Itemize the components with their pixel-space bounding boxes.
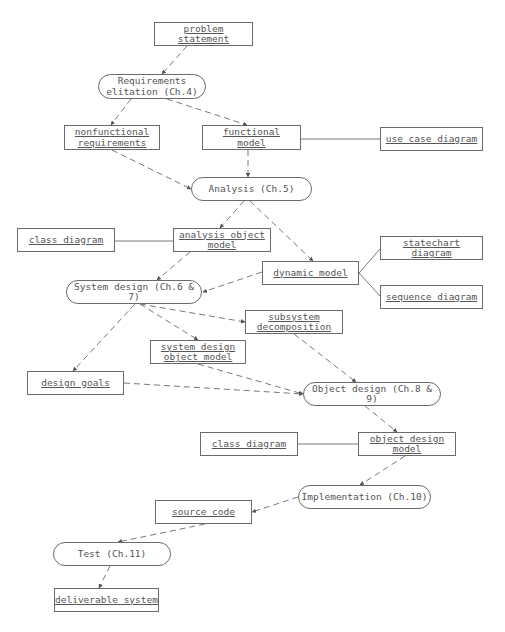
- node-system-design-object-model: system design object model: [150, 340, 246, 364]
- edge-system-design-object-model-to-object-design: [198, 364, 303, 394]
- node-subsystem-decomposition: subsystem decomposition: [245, 310, 343, 334]
- node-statechart-diagram: statechart diagram: [380, 236, 483, 260]
- edge-test-to-deliverable-system: [99, 566, 110, 588]
- edge-problem-statement-to-requirements-elicitation: [162, 46, 187, 74]
- node-object-design-model: object design model: [358, 432, 456, 456]
- node-test: Test (Ch.11): [53, 542, 171, 566]
- edge-requirements-elicitation-to-nonfunctional-requirements: [111, 99, 131, 125]
- node-nonfunctional-requirements: nonfunctional requirements: [64, 125, 160, 150]
- edge-system-design-to-subsystem-decomposition: [140, 304, 245, 322]
- edge-source-code-to-test: [118, 524, 205, 542]
- edge-nonfunctional-requirements-to-analysis: [112, 150, 191, 189]
- node-sequence-diagram: sequence diagram: [380, 285, 483, 309]
- edge-analysis-object-model-to-system-design: [157, 252, 190, 280]
- node-analysis: Analysis (Ch.5): [191, 177, 312, 201]
- node-class-diagram-1: class diagram: [17, 228, 115, 252]
- edge-dynamic-model-to-sequence-diagram: [359, 273, 380, 296]
- edge-object-design-model-to-implementation: [360, 456, 405, 485]
- node-deliverable-system: deliverable system: [54, 588, 159, 612]
- edge-requirements-elicitation-to-functional-model: [167, 99, 247, 125]
- node-problem-statement: problem statement: [154, 22, 253, 46]
- node-source-code: source code: [155, 500, 252, 524]
- node-object-design: Object design (Ch.8 & 9): [303, 382, 441, 406]
- edge-implementation-to-source-code: [252, 497, 298, 512]
- edge-design-goals-to-object-design: [124, 383, 303, 394]
- node-requirements-elicitation: Requirements elitation (Ch.4): [98, 74, 206, 99]
- edge-object-design-to-object-design-model: [365, 406, 397, 432]
- node-system-design: System design (Ch.6 & 7): [66, 280, 202, 304]
- edge-dynamic-model-to-system-design: [203, 272, 262, 292]
- edge-subsystem-decomposition-to-object-design: [294, 334, 356, 382]
- node-functional-model: functional model: [202, 125, 301, 150]
- node-class-diagram-2: class diagram: [200, 432, 298, 456]
- node-design-goals: design goals: [27, 371, 124, 395]
- node-implementation: Implementation (Ch.10): [298, 485, 431, 509]
- node-analysis-object-model: analysis object model: [173, 228, 271, 252]
- edge-analysis-to-analysis-object-model: [220, 201, 244, 228]
- edge-dynamic-model-to-statechart-diagram: [359, 249, 380, 273]
- edge-system-design-to-system-design-object-model: [140, 304, 198, 340]
- node-dynamic-model: dynamic model: [262, 261, 359, 285]
- diagram-canvas: problem statement Requirements elitation…: [0, 0, 505, 632]
- node-use-case-diagram: use case diagram: [380, 127, 483, 151]
- edge-system-design-to-design-goals: [73, 304, 135, 371]
